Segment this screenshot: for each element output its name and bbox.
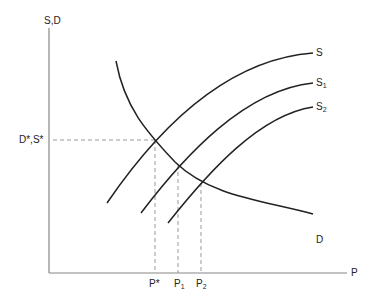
x-tick-p2: P2 bbox=[196, 279, 207, 292]
x-axis-label: P bbox=[351, 268, 358, 278]
equilibrium-label: D*,S* bbox=[19, 135, 43, 145]
x-tick-p-star: P* bbox=[149, 279, 160, 289]
curve-label-s: S bbox=[316, 48, 323, 58]
diagram-canvas bbox=[0, 0, 372, 305]
x-tick-p1: P1 bbox=[174, 279, 185, 292]
curve-label-s1: S1 bbox=[316, 78, 327, 91]
demand-curve-d bbox=[116, 61, 313, 214]
supply-curve-s2 bbox=[168, 107, 313, 223]
supply-curve-s1 bbox=[141, 83, 313, 213]
curve-label-s2: S2 bbox=[316, 102, 327, 115]
curve-label-d: D bbox=[316, 235, 323, 245]
y-axis-label: S,D bbox=[44, 16, 61, 26]
supply-demand-diagram: S,D P D*,S* S S1 S2 D P* P1 P2 bbox=[0, 0, 372, 305]
supply-curve-s bbox=[107, 53, 313, 203]
